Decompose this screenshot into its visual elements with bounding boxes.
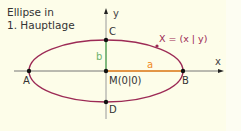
title-line-2: 1. Hauptlage	[7, 19, 75, 32]
y-axis-label: y	[113, 8, 119, 19]
point-a	[27, 69, 31, 73]
y-axis-arrow-icon	[104, 8, 108, 14]
label-a: A	[23, 75, 30, 86]
x-axis-label: x	[215, 56, 221, 67]
label-semi-major-a: a	[147, 59, 153, 70]
label-c: C	[109, 26, 116, 37]
label-d: D	[109, 104, 117, 115]
x-axis-arrow-icon	[218, 69, 224, 73]
label-semi-minor-b: b	[96, 51, 102, 62]
point-m	[104, 69, 108, 73]
point-b	[181, 69, 185, 73]
point-c	[104, 38, 108, 42]
label-b: B	[182, 75, 189, 86]
label-m: M(0|0)	[109, 75, 142, 86]
title-line-1: Ellipse in	[7, 6, 75, 19]
label-x-point: X = (x | y)	[159, 33, 207, 44]
point-x	[155, 44, 158, 47]
point-d	[104, 100, 108, 104]
ellipse-diagram: Ellipse in 1. Hauptlage y x C A B D M(0|…	[0, 0, 241, 131]
diagram-title: Ellipse in 1. Hauptlage	[7, 6, 75, 32]
